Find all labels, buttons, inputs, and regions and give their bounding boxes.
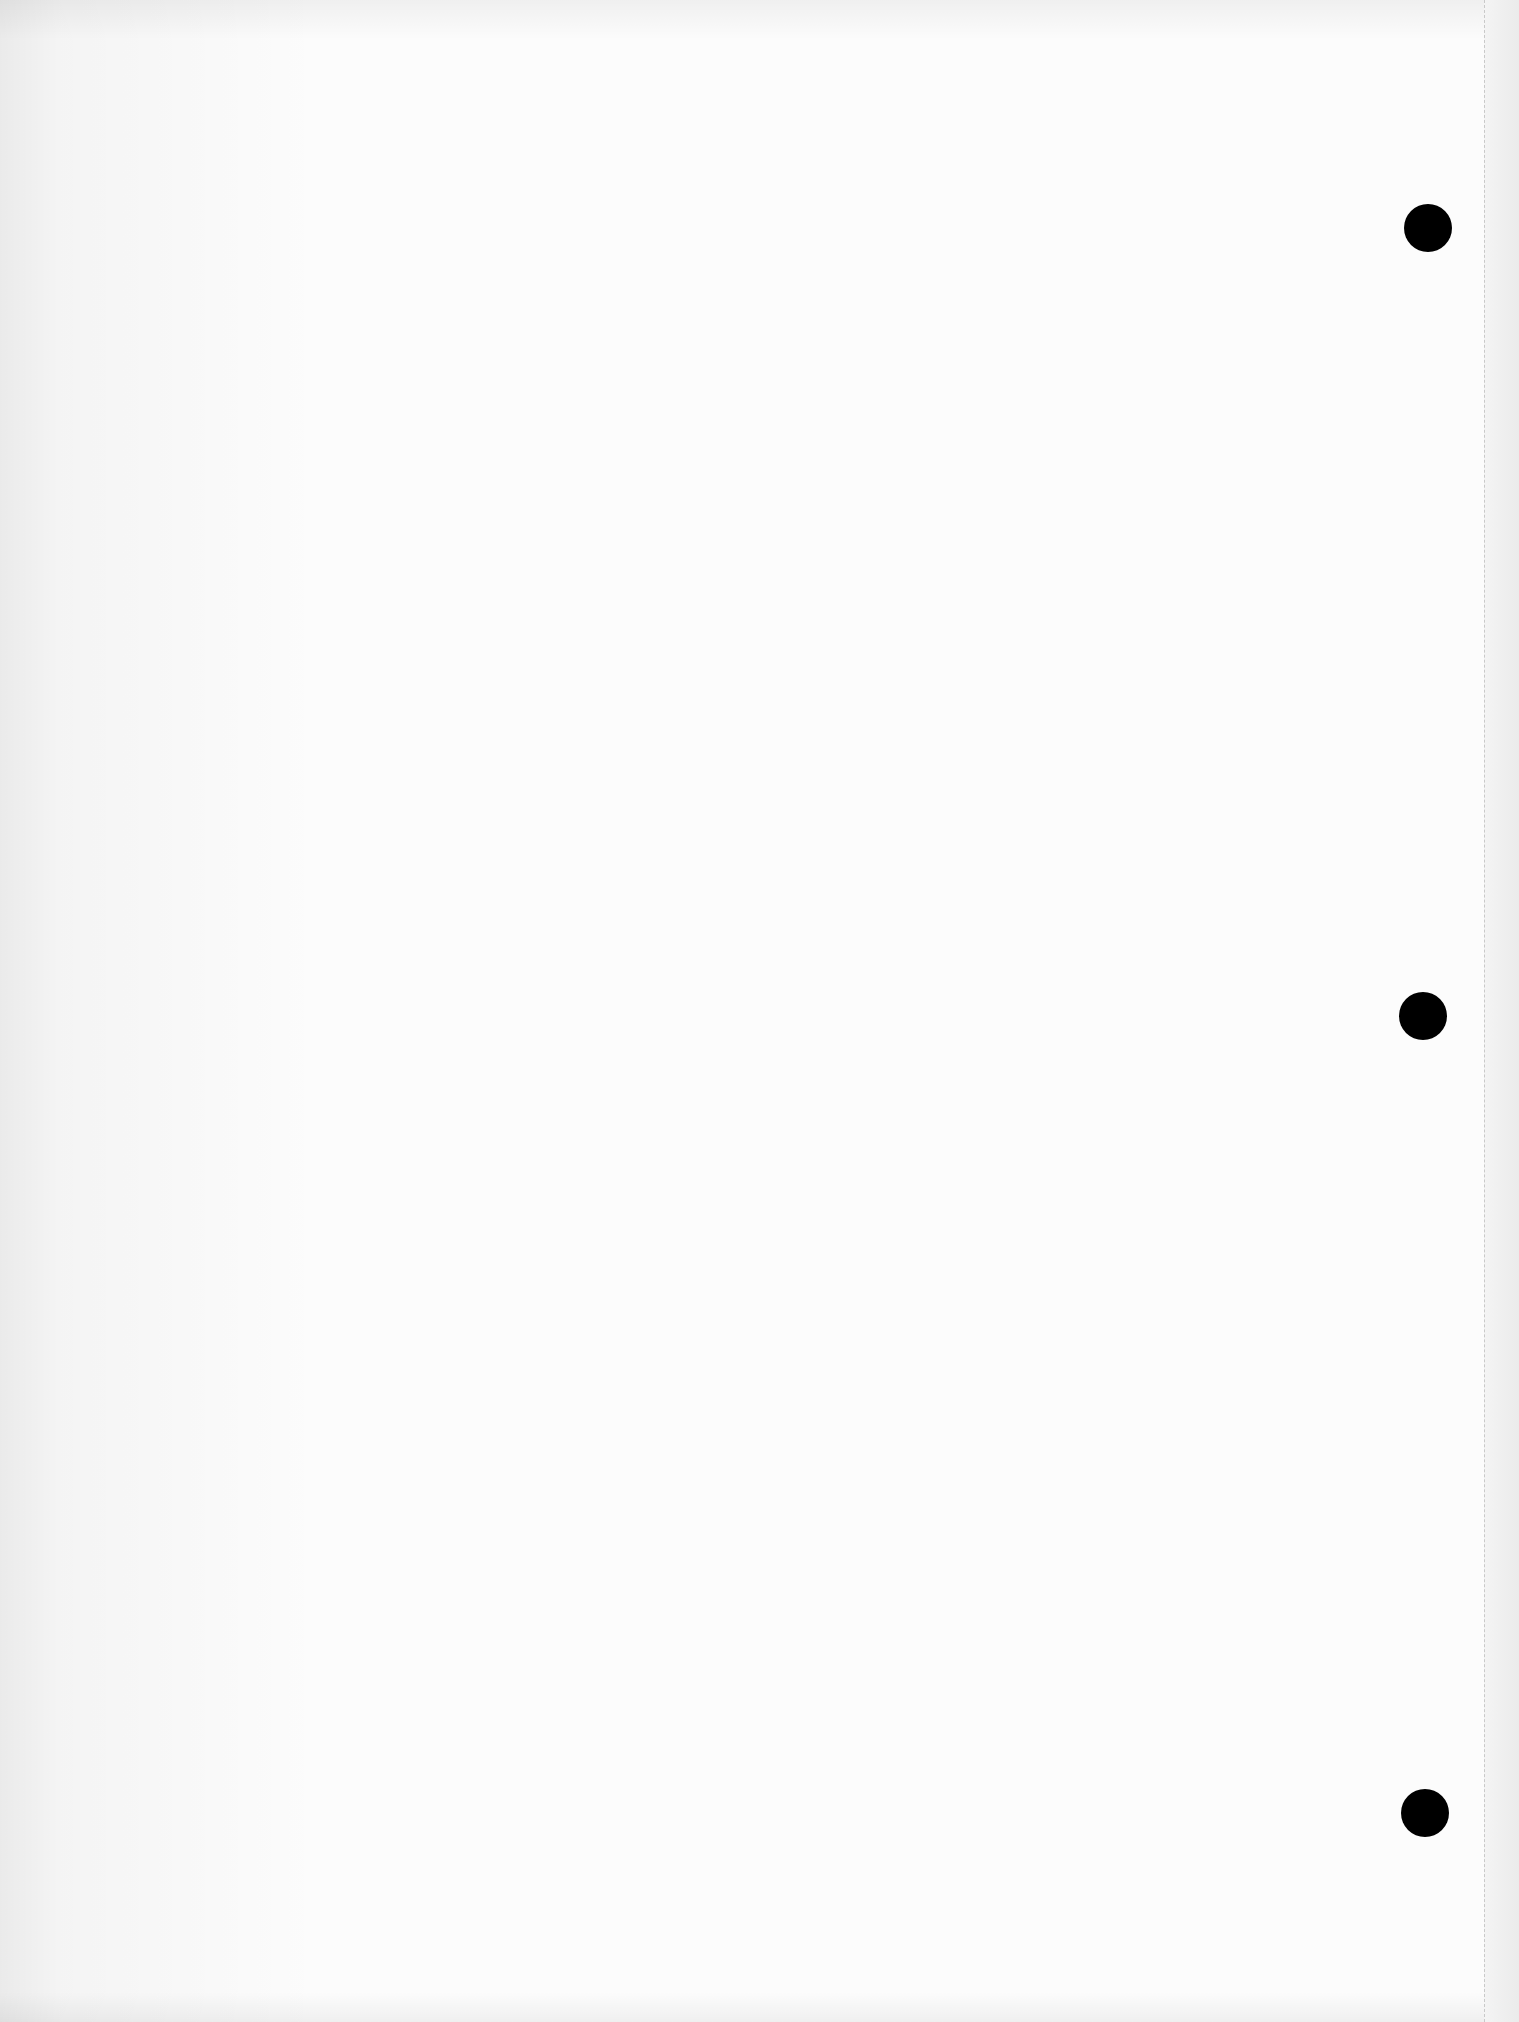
perforation-line — [1484, 0, 1485, 2022]
punch-hole-3 — [1401, 1789, 1449, 1837]
punch-hole-2 — [1399, 992, 1447, 1040]
punch-hole-1 — [1404, 204, 1452, 252]
blank-page — [0, 0, 1519, 2022]
tear-off-margin — [1484, 0, 1519, 2022]
